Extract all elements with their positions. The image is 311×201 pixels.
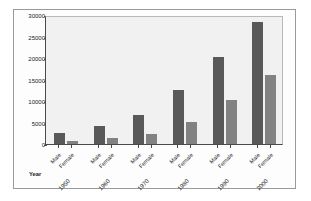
y-axis-tick-mark	[44, 145, 47, 146]
bar-female-1950	[67, 141, 78, 144]
bar-female-1990	[226, 100, 237, 144]
x-axis-tick-mark	[98, 145, 99, 148]
x-axis-tick-mark	[177, 145, 178, 148]
y-axis-tick-label: 15000	[19, 78, 45, 84]
bar-male-1980	[173, 90, 184, 144]
x-axis-title: Year	[29, 171, 41, 177]
x-axis-tick-mark	[71, 145, 72, 148]
bar-male-1970	[133, 115, 144, 144]
x-axis-tick-mark	[230, 145, 231, 148]
y-axis-tick-label: 5000	[19, 121, 45, 127]
plot-area	[45, 16, 283, 145]
x-axis-tick-mark	[190, 145, 191, 148]
y-axis-tick-label: 30000	[19, 13, 45, 19]
x-axis-tick-mark	[111, 145, 112, 148]
x-axis-tick-mark	[151, 145, 152, 148]
bar-female-1980	[186, 122, 197, 144]
bar-female-1970	[146, 134, 157, 144]
bar-male-1960	[94, 126, 105, 144]
y-axis-tick-label: 20000	[19, 56, 45, 62]
bar-female-1960	[107, 138, 118, 144]
x-axis-tick-mark	[138, 145, 139, 148]
x-axis-tick-mark	[58, 145, 59, 148]
bar-male-1990	[213, 57, 224, 144]
x-axis-tick-mark	[257, 145, 258, 148]
x-axis-tick-mark	[217, 145, 218, 148]
bar-male-2000	[252, 22, 263, 144]
y-axis-tick-label: 25000	[19, 35, 45, 41]
y-axis-tick-label: 0	[19, 142, 45, 148]
y-axis-tick-label: 10000	[19, 99, 45, 105]
x-axis-tick-mark	[270, 145, 271, 148]
bar-female-2000	[265, 75, 276, 144]
bar-male-1950	[54, 133, 65, 144]
